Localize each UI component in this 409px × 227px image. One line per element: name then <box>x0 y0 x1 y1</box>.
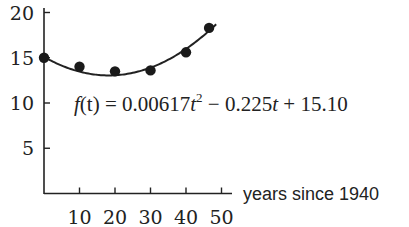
y-tick-label: 15 <box>10 47 34 69</box>
x-axis-label: years since 1940 <box>243 184 379 204</box>
data-point <box>145 65 155 75</box>
data-point <box>110 66 120 76</box>
data-point <box>74 62 84 72</box>
chart: 5101520 1020304050 f(t) = 0.00617t2 − 0.… <box>0 0 409 227</box>
data-point <box>39 53 49 63</box>
data-point <box>181 47 191 57</box>
y-tick-label: 10 <box>10 92 34 114</box>
data-points <box>39 23 214 77</box>
data-point <box>204 23 214 33</box>
equation-label: f(t) = 0.00617t2 − 0.225t + 15.10 <box>74 90 348 116</box>
x-tick-label: 30 <box>138 206 162 227</box>
y-tick-label: 5 <box>22 137 34 159</box>
x-tick-label: 10 <box>67 206 91 227</box>
x-tick-label: 20 <box>103 206 127 227</box>
y-tick-label: 20 <box>10 2 34 24</box>
x-tick-label: 50 <box>209 206 233 227</box>
x-tick-label: 40 <box>174 206 198 227</box>
